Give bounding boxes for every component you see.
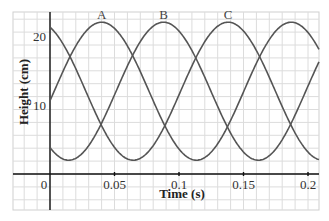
- x-axis-title: Time (s): [159, 186, 205, 201]
- wave-height-chart: 00.050.10.150.2 1020 ABC Time (s) Height…: [0, 0, 329, 221]
- y-tick-label: 20: [33, 29, 46, 44]
- x-tick-label: 0.2: [300, 177, 316, 192]
- curve-label-c: C: [224, 7, 233, 22]
- x-tick-label: 0.05: [103, 177, 126, 192]
- curve-label-a: A: [97, 7, 107, 22]
- x-tick-label: 0.15: [232, 177, 255, 192]
- y-axis-title: Height (cm): [16, 59, 31, 125]
- curve-label-b: B: [159, 7, 168, 22]
- x-tick-label: 0: [41, 177, 48, 192]
- y-tick-label: 10: [33, 98, 46, 113]
